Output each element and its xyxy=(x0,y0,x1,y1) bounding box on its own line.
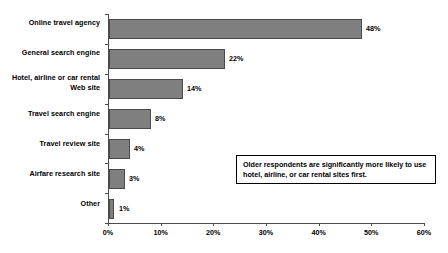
category-label: Travel review site xyxy=(0,139,100,149)
y-axis-tick xyxy=(105,14,108,15)
annotation-box: Older respondents are significantly more… xyxy=(236,155,436,184)
category-label-line: Web site xyxy=(0,83,100,93)
x-axis-tick xyxy=(108,223,109,226)
y-axis-tick xyxy=(105,74,108,75)
bar-value-label: 22% xyxy=(229,54,243,63)
x-axis-tick xyxy=(371,223,372,226)
category-label-line: Travel review site xyxy=(0,139,100,149)
category-label-line: Other xyxy=(0,199,100,209)
x-axis-tick-label: 50% xyxy=(364,228,378,237)
annotation-line: hotel, airline, or car rental sites firs… xyxy=(243,170,426,180)
annotation-line: Older respondents are significantly more… xyxy=(243,160,426,170)
y-axis-tick xyxy=(105,134,108,135)
category-label-line: Hotel, airline or car rental xyxy=(0,73,100,83)
bar-general-search-engine xyxy=(109,49,225,69)
x-axis-tick xyxy=(266,223,267,226)
bar-travel-search-engine xyxy=(109,109,151,129)
y-axis-tick xyxy=(105,163,108,164)
category-label-line: Online travel agency xyxy=(0,18,100,28)
bar-value-label: 48% xyxy=(366,24,380,33)
category-label-line: General search engine xyxy=(0,48,100,58)
category-label: General search engine xyxy=(0,48,100,58)
category-label-line: Airfare research site xyxy=(0,169,100,179)
category-label: Hotel, airline or car rental Web site xyxy=(0,73,100,92)
category-label: Travel search engine xyxy=(0,109,100,119)
y-axis-tick xyxy=(105,104,108,105)
x-axis-tick-label: 20% xyxy=(206,228,220,237)
annotation-text: Older respondents are significantly more… xyxy=(243,160,426,179)
x-axis-tick-label: 60% xyxy=(417,228,431,237)
bar-travel-review-site xyxy=(109,139,130,159)
bar-chart: Online travel agency General search engi… xyxy=(0,0,448,253)
bar-hotel-airline-car-rental-web-site xyxy=(109,79,183,99)
category-label: Online travel agency xyxy=(0,18,100,28)
plot-area: 48% 22% 14% 8% 4% 3% 1% xyxy=(108,14,424,223)
bar-value-label: 3% xyxy=(129,174,139,183)
x-axis-tick xyxy=(424,223,425,226)
y-axis-tick xyxy=(105,44,108,45)
x-axis-tick xyxy=(319,223,320,226)
category-label: Other xyxy=(0,199,100,209)
bar-value-label: 14% xyxy=(187,84,201,93)
bar-airfare-research-site xyxy=(109,169,125,189)
y-axis-tick xyxy=(105,193,108,194)
x-axis-tick xyxy=(213,223,214,226)
x-axis-tick-label: 0% xyxy=(103,228,113,237)
bar-online-travel-agency xyxy=(109,19,362,39)
category-label-line: Travel search engine xyxy=(0,109,100,119)
x-axis-labels: 0% 10% 20% 30% 40% 50% 60% xyxy=(108,228,438,242)
x-axis-tick-label: 30% xyxy=(259,228,273,237)
category-axis-labels: Online travel agency General search engi… xyxy=(0,14,104,223)
x-axis-tick xyxy=(161,223,162,226)
bar-value-label: 1% xyxy=(119,204,129,213)
bar-value-label: 8% xyxy=(155,114,165,123)
bar-value-label: 4% xyxy=(134,144,144,153)
bar-other xyxy=(109,199,114,219)
x-axis-tick-label: 10% xyxy=(153,228,167,237)
x-axis-tick-label: 40% xyxy=(311,228,325,237)
category-label: Airfare research site xyxy=(0,169,100,179)
